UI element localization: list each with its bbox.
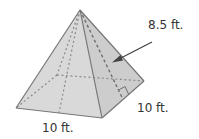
base-side-right-label: 10 ft. <box>137 101 169 115</box>
slant-height-label: 8.5 ft. <box>148 18 183 32</box>
base-side-front-label: 10 ft. <box>42 121 74 135</box>
pyramid-diagram: 8.5 ft. 10 ft. 10 ft. <box>0 0 199 139</box>
